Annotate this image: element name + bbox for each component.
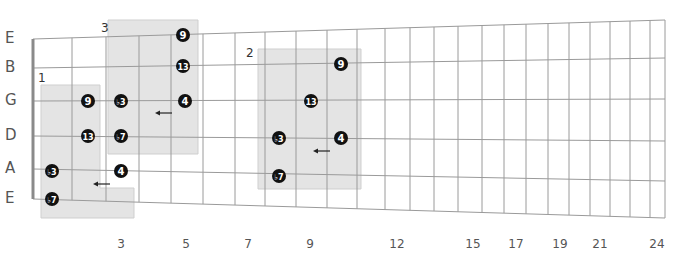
fretboard-svg: 913♭3♭74♭3♭79134913♭34♭7 [0, 0, 688, 266]
note-interval-label: ♭3 [47, 168, 56, 177]
note-interval-label: ♭7 [274, 173, 283, 182]
note-interval-label: 9 [85, 96, 92, 107]
position-box-number: 3 [101, 22, 109, 34]
note-interval-label: 4 [182, 96, 189, 107]
note-interval-label: 4 [118, 166, 125, 177]
fret-number-label: 17 [508, 238, 523, 250]
fret-number-label: 3 [117, 238, 125, 250]
string-name-label: D [5, 128, 17, 143]
note-interval-label: 13 [177, 63, 188, 72]
fret-number-label: 7 [244, 238, 252, 250]
fret-number-label: 15 [465, 238, 480, 250]
string-name-label: A [5, 161, 15, 176]
note-interval-label: 13 [82, 133, 93, 142]
note-interval-label: ♭3 [274, 135, 283, 144]
fret-number-label: 19 [552, 238, 567, 250]
position-box-2 [258, 49, 361, 189]
note-interval-label: 4 [338, 133, 345, 144]
fret-number-label: 24 [649, 238, 664, 250]
note-interval-label: 9 [180, 30, 187, 41]
note-interval-label: ♭7 [47, 196, 56, 205]
position-box-number: 2 [246, 47, 254, 59]
string-name-label: E [5, 191, 14, 206]
fret-number-label: 9 [306, 238, 314, 250]
note-interval-label: ♭7 [116, 133, 125, 142]
note-interval-label: ♭3 [116, 98, 125, 107]
fret-number-label: 12 [389, 238, 404, 250]
string-name-label: G [5, 93, 17, 108]
position-box-number: 1 [38, 72, 46, 84]
fret-number-label: 5 [182, 238, 190, 250]
string-name-label: E [5, 31, 14, 46]
fretboard-diagram: 913♭3♭74♭3♭79134913♭34♭7 EBGDAE357912151… [0, 0, 688, 266]
string-name-label: B [5, 60, 15, 75]
fret-number-label: 21 [592, 238, 607, 250]
note-interval-label: 9 [338, 59, 345, 70]
note-interval-label: 13 [305, 98, 316, 107]
